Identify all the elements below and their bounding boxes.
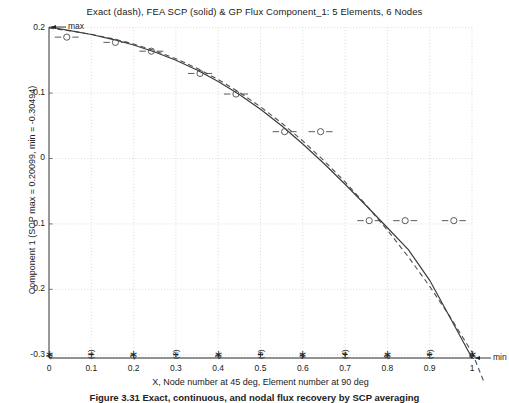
gp-flux-marker	[55, 34, 79, 40]
y-tick-label: -0.2	[19, 283, 45, 293]
annotation-arrows	[51, 25, 491, 360]
x-tick-label: 0.7	[332, 363, 358, 373]
element-number-label: (4)	[340, 349, 349, 359]
gp-flux-marker	[393, 218, 417, 224]
max-annotation-label: max	[68, 21, 84, 31]
x-axis-label: X, Node number at 45 deg, Element number…	[49, 377, 472, 387]
x-tick-label: 0	[36, 363, 62, 373]
y-axis-label: Component 1 (SCP max = 0.20099, min = -0…	[27, 65, 37, 315]
y-tick-label: 0.1	[19, 87, 45, 97]
axis-frame	[49, 27, 472, 358]
min-annotation-label: min	[493, 352, 507, 362]
x-tick-label: 0.9	[417, 363, 443, 373]
grid-lines	[49, 27, 472, 358]
gp-flux-marker	[273, 129, 297, 135]
gp-flux-marker	[309, 129, 333, 135]
element-number-label: (2)	[171, 349, 180, 359]
curve-fea-scp-solid	[49, 27, 472, 358]
x-tick-label: 1	[459, 363, 485, 373]
x-tick-label: 0.3	[163, 363, 189, 373]
y-tick-label: -0.3	[19, 349, 45, 359]
x-tick-label: 0.8	[374, 363, 400, 373]
gp-flux-marker	[357, 218, 381, 224]
gp-flux-marker	[442, 218, 466, 224]
element-number-label: (3)	[256, 349, 265, 359]
figure-caption: Figure 3.31 Exact, continuous, and nodal…	[0, 392, 509, 403]
x-tick-label: 0.1	[78, 363, 104, 373]
data-curves	[49, 27, 484, 382]
y-tick-label: 0.2	[19, 22, 45, 32]
y-tick-label: 0	[19, 152, 45, 162]
tick-marks	[49, 28, 472, 358]
x-tick-label: 0.5	[248, 363, 274, 373]
x-tick-label: 0.6	[290, 363, 316, 373]
curve-exact-dashed	[49, 28, 472, 352]
element-number-label: (5)	[425, 349, 434, 359]
x-tick-label: 0.4	[205, 363, 231, 373]
y-tick-label: -0.1	[19, 218, 45, 228]
x-tick-label: 0.2	[121, 363, 147, 373]
element-number-label: (1)	[86, 349, 95, 359]
